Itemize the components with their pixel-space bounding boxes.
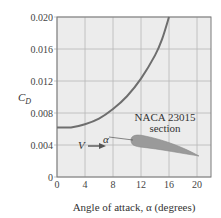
x-axis-label: Angle of attack, α (degrees) [73,201,196,214]
y-tick-label: 0.020 [31,12,54,23]
x-tick-label: 12 [136,179,146,190]
y-tick-label: 0.012 [31,76,54,87]
airfoil-section-label: section [149,122,181,134]
x-tick-label: 0 [55,179,60,190]
x-tick-label: 8 [111,179,116,190]
y-tick-label: 0.008 [31,108,54,119]
drag-coefficient-chart: 04812162000.0040.0080.0120.0160.020 CD A… [0,0,221,218]
plot-area: 04812162000.0040.0080.0120.0160.020 [31,12,212,191]
x-tick-label: 20 [192,179,202,190]
x-tick-label: 4 [83,179,88,190]
y-tick-label: 0 [48,172,53,183]
x-tick-label: 16 [164,179,174,190]
alpha-label: α [103,133,109,145]
y-tick-label: 0.016 [31,44,54,55]
y-tick-label: 0.004 [31,140,54,151]
y-axis-label: CD [18,91,31,106]
